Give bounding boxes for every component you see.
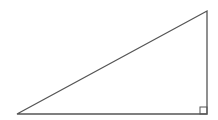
triangle [17,11,207,114]
right-triangle-diagram [0,0,218,120]
right-angle-marker [200,107,207,114]
